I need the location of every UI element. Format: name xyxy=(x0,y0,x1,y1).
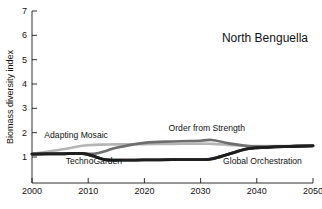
x-tick-label: 2010 xyxy=(78,186,98,196)
y-tick-label: 2 xyxy=(22,128,27,138)
series-label-technogarden: TechnoGarden xyxy=(66,156,123,166)
series-label-global-orchestration: Global Orchestration xyxy=(223,156,302,166)
series-label-order-from-strength: Order from Strength xyxy=(169,123,246,133)
x-tick-label: 2000 xyxy=(22,186,42,196)
x-tick-label: 2030 xyxy=(191,186,211,196)
y-tick-label: 7 xyxy=(22,6,27,16)
biomass-diversity-line-chart: Biomass diversity index North Benguella … xyxy=(0,0,322,209)
y-axis: 1234567 xyxy=(22,6,37,162)
y-tick-label: 3 xyxy=(22,103,27,113)
x-axis: 200020102020203020402050 xyxy=(22,178,322,196)
y-tick-label: 6 xyxy=(22,30,27,40)
y-axis-title: Biomass diversity index xyxy=(5,49,15,144)
chart-container: Biomass diversity index North Benguella … xyxy=(0,0,322,209)
y-tick-label: 1 xyxy=(22,152,27,162)
page-title: North Benguella xyxy=(222,31,308,45)
y-tick-label: 5 xyxy=(22,55,27,65)
x-tick-label: 2050 xyxy=(303,186,322,196)
x-tick-label: 2020 xyxy=(134,186,154,196)
series-label-adapting-mosaic: Adapting Mosaic xyxy=(44,130,108,140)
x-tick-label: 2040 xyxy=(247,186,267,196)
y-tick-label: 4 xyxy=(22,79,27,89)
